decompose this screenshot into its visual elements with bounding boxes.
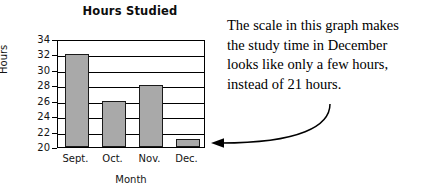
y-tick-label: 22 <box>33 128 50 138</box>
chart-title: Hours Studied <box>40 4 220 18</box>
arrow-head <box>211 138 224 148</box>
x-tick-label: Oct. <box>93 153 133 164</box>
x-tick-label: Nov. <box>130 153 170 164</box>
bar <box>176 139 200 147</box>
annotation-line-1: The scale in this graph makes <box>227 17 399 33</box>
bar <box>65 54 89 147</box>
annotation-line-3: looks like only a few hours, <box>227 56 388 72</box>
y-tick-label: 32 <box>33 50 50 60</box>
bar <box>102 101 126 147</box>
y-tick-label: 26 <box>33 97 50 107</box>
arrow-curve <box>221 104 330 143</box>
y-tick-label: 20 <box>33 143 50 153</box>
x-axis-label: Month <box>57 174 205 185</box>
x-tick-label: Sept. <box>56 153 96 164</box>
bar <box>139 85 163 147</box>
plot-area <box>57 40 205 148</box>
x-tick-label: Dec. <box>167 153 207 164</box>
y-tick-label: 30 <box>33 66 50 76</box>
y-tick-mark <box>52 148 57 149</box>
y-tick-label: 34 <box>33 35 50 45</box>
annotation-line-4: instead of 21 hours. <box>227 76 341 92</box>
annotation-text: The scale in this graph makes the study … <box>227 16 437 94</box>
y-tick-label: 28 <box>33 81 50 91</box>
annotation-line-2: the study time in December <box>227 37 387 53</box>
y-axis-label: Hours <box>0 45 9 74</box>
y-tick-label: 24 <box>33 112 50 122</box>
figure-container: Hours Studied Hours 2022242628303234 Sep… <box>0 0 442 196</box>
